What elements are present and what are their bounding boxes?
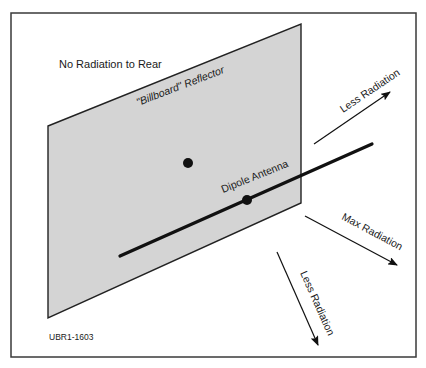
dipole-feedpoint xyxy=(242,195,252,205)
reflector-center-dot xyxy=(183,158,193,168)
figure-id-label: UBR1-1603 xyxy=(49,332,94,342)
diagram-canvas: No Radiation to Rear "Billboard" Reflect… xyxy=(0,0,426,368)
rear-label: No Radiation to Rear xyxy=(59,58,162,70)
